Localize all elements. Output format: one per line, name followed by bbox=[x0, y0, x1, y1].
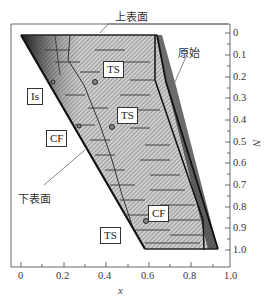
annotation-is: Is bbox=[27, 88, 43, 105]
x-axis-ticks bbox=[21, 262, 213, 267]
x-tick-1.0: 1.0 bbox=[224, 270, 237, 281]
x-tick-0.2: 0.2 bbox=[56, 270, 69, 281]
label-original: 原始 bbox=[178, 44, 200, 60]
x-axis-title: x bbox=[118, 284, 123, 296]
x-tick-0.4: 0.4 bbox=[98, 270, 111, 281]
y-axis-ticks bbox=[225, 33, 230, 250]
y-axis-title: N bbox=[251, 139, 263, 146]
y-tick-0.2: 0.2 bbox=[233, 71, 246, 82]
y-tick-0.4: 0.4 bbox=[233, 114, 246, 125]
annotation-cf-1: CF bbox=[46, 130, 67, 147]
y-tick-1.0: 1.0 bbox=[233, 244, 246, 255]
y-tick-0.9: 0.9 bbox=[233, 222, 246, 233]
x-tick-0: 0 bbox=[18, 270, 23, 281]
annotation-cf-2: CF bbox=[148, 205, 169, 222]
label-upper-surface: 上表面 bbox=[115, 8, 148, 24]
y-tick-0.1: 0.1 bbox=[233, 49, 246, 60]
y-tick-0.6: 0.6 bbox=[233, 157, 246, 168]
y-tick-0.3: 0.3 bbox=[233, 92, 246, 103]
y-tick-0.8: 0.8 bbox=[233, 201, 246, 212]
x-tick-0.8: 0.8 bbox=[183, 270, 196, 281]
y-tick-0.7: 0.7 bbox=[233, 179, 246, 190]
y-tick-0: 0 bbox=[233, 27, 238, 38]
annotation-ts-3: TS bbox=[100, 227, 121, 244]
x-tick-0.6: 0.6 bbox=[141, 270, 154, 281]
y-tick-0.5: 0.5 bbox=[233, 136, 246, 147]
chart-canvas bbox=[0, 0, 271, 298]
annotation-ts-2: TS bbox=[117, 107, 138, 124]
annotation-ts-1: TS bbox=[103, 61, 124, 78]
label-lower-surface: 下表面 bbox=[18, 190, 51, 206]
